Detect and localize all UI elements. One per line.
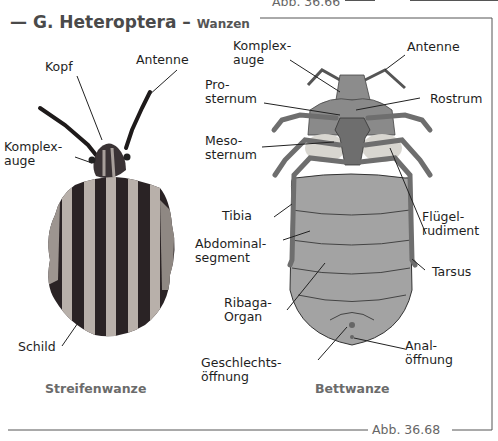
figure-ref: Abb. 36.68: [372, 422, 440, 437]
label-fluegelrudiment: Flügel- rudiment: [422, 210, 479, 238]
label-tarsus: Tarsus: [432, 265, 471, 279]
label-ribaga-organ: Ribaga- Organ: [224, 296, 272, 324]
label-rostrum: Rostrum: [430, 92, 482, 106]
caption-bettwanze: Bettwanze: [315, 381, 390, 396]
label-antenne-right: Antenne: [407, 40, 460, 54]
label-prosternum: Pro- sternum: [205, 78, 257, 106]
bedbug-illustration: [274, 70, 430, 345]
label-komplexauge-right: Komplex- auge: [233, 39, 291, 67]
label-kopf: Kopf: [45, 60, 73, 74]
label-tibia: Tibia: [222, 209, 252, 223]
label-abdominalsegment: Abdominal- segment: [195, 237, 266, 265]
label-antenne-left: Antenne: [136, 53, 189, 67]
label-analoeffnung: Anal- öffnung: [405, 339, 453, 367]
label-komplexauge-left: Komplex- auge: [4, 140, 62, 168]
striped-bug-illustration: [40, 92, 175, 350]
caption-streifenwanze: Streifenwanze: [45, 381, 146, 396]
label-mesosternum: Meso- sternum: [205, 134, 257, 162]
label-geschlechtsoeffnung: Geschlechts- öffnung: [201, 356, 282, 384]
label-schild: Schild: [18, 340, 56, 354]
